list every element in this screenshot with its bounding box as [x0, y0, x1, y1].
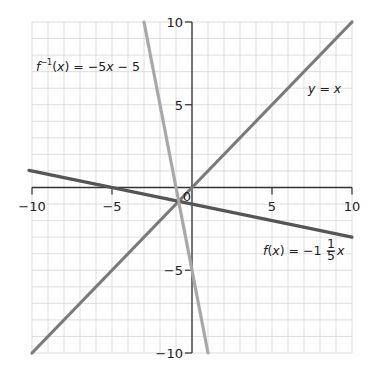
x-tick-label: −5 [102, 199, 121, 214]
inverse-function-label: f−1(x) = −5x − 5 [36, 58, 140, 74]
y-tick-label: −5 [164, 263, 183, 278]
fraction-denominator: 5 [327, 248, 335, 263]
y-tick-label: 5 [175, 98, 183, 113]
x-tick-label: 0 [183, 189, 191, 204]
x-tick-label: 5 [268, 199, 276, 214]
fraction-variable: x [336, 243, 345, 258]
y-tick-label: 10 [166, 15, 183, 30]
x-tick-label: 10 [344, 199, 361, 214]
identity-line-label: y = x [307, 81, 342, 96]
x-tick-label: −10 [18, 199, 45, 214]
chart: −10−50510−10−5510 f−1(x) = −5x − 5 y = x… [0, 0, 373, 371]
svg-text:f(x) = −1 −: f(x) = −1 − [263, 243, 336, 258]
y-tick-label: −10 [156, 346, 183, 361]
